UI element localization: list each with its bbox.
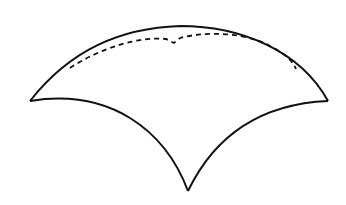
leaf-dashed-margin bbox=[70, 34, 296, 69]
leaf-left-lower-edge bbox=[30, 99, 188, 191]
leaf-right-lower-edge bbox=[188, 101, 328, 191]
ginkgo-leaf-diagram bbox=[0, 0, 346, 205]
leaf-top-edge bbox=[30, 26, 328, 101]
